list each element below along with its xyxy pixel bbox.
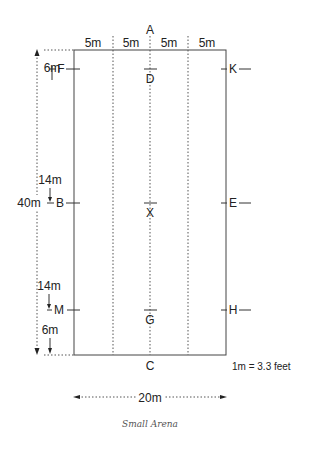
segment-label-2: 5m	[123, 36, 140, 50]
letter-x: X	[146, 206, 154, 220]
letter-e: E	[229, 196, 237, 210]
spacing-b-to-m: 14m	[37, 279, 60, 293]
length-label: 40m	[17, 196, 40, 210]
conversion-note: 1m = 3.3 feet	[232, 361, 291, 372]
caption: Small Arena	[122, 419, 178, 429]
letter-k: K	[229, 62, 237, 76]
segment-label-4: 5m	[199, 36, 216, 50]
arena-diagram: 40m 5m 5m 5m 5m A C F B M D X G K E H 6m…	[0, 0, 309, 452]
arrow-down-icon	[35, 348, 40, 355]
letter-d: D	[146, 72, 155, 86]
arrow-left-icon	[73, 395, 80, 399]
letter-b: B	[56, 196, 64, 210]
width-label: 20m	[138, 391, 161, 405]
segment-label-3: 5m	[161, 36, 178, 50]
spacing-f-to-b: 14m	[38, 173, 61, 187]
letter-h: H	[229, 303, 238, 317]
segment-label-1: 5m	[85, 36, 102, 50]
spacing-m-to-bottom: 6m	[42, 323, 59, 337]
letter-c: C	[146, 359, 155, 373]
letter-m: M	[54, 303, 64, 317]
arrow-right-icon	[220, 395, 227, 399]
letter-g: G	[145, 313, 154, 327]
letter-a: A	[146, 23, 154, 37]
arrow-up-icon	[35, 49, 40, 56]
